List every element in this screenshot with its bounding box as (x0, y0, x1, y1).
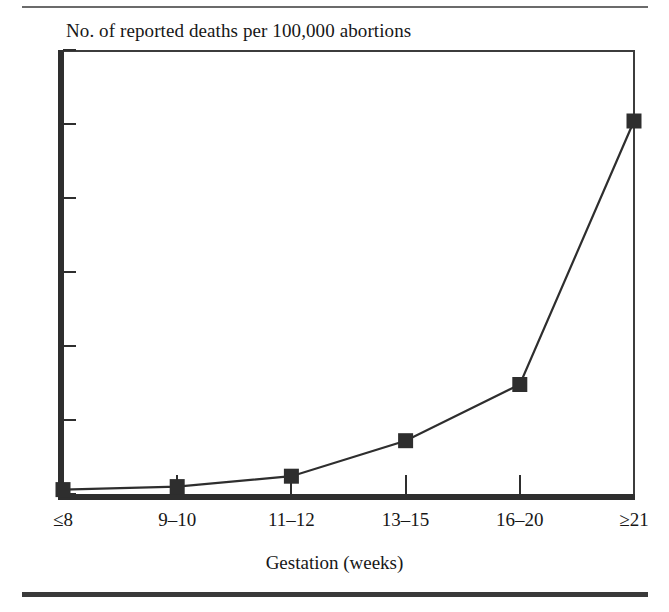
figure-panel: No. of reported deaths per 100,000 abort… (0, 0, 669, 612)
x-tick-label: 16–20 (496, 510, 544, 529)
data-series-deaths-per-100000 (63, 50, 634, 494)
plot-area: 15.012.510.07.55.02.50.0 ≤89–1011–1213–1… (63, 50, 634, 494)
data-point-marker (284, 469, 299, 484)
series-line (63, 121, 634, 490)
x-tick-label: 11–12 (268, 510, 315, 529)
chart-title: No. of reported deaths per 100,000 abort… (66, 20, 411, 42)
data-point-marker (170, 479, 185, 494)
x-tick-label: ≤8 (53, 510, 73, 529)
axis-bottom-spine (58, 494, 635, 500)
x-tick-label: 9–10 (158, 510, 196, 529)
data-point-marker (398, 433, 413, 448)
top-divider-rule (22, 6, 648, 8)
bottom-divider-rule (22, 592, 648, 597)
x-axis-title: Gestation (weeks) (0, 552, 669, 574)
x-tick-label: ≥21 (619, 510, 648, 529)
data-point-marker (56, 482, 71, 497)
x-tick-label: 13–15 (382, 510, 430, 529)
data-point-marker (512, 377, 527, 392)
data-point-marker (627, 114, 642, 129)
